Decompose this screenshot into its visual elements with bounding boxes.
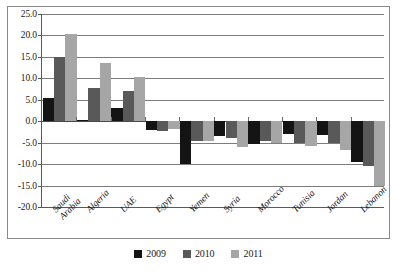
- bar-2011: [65, 34, 76, 121]
- y-axis-label: 10.0: [21, 73, 37, 83]
- bar-2010: [363, 121, 374, 166]
- bar-group: [76, 14, 110, 207]
- x-axis-tick: [248, 117, 249, 121]
- bar-2011: [203, 121, 214, 140]
- x-axis-tick: [111, 117, 112, 121]
- bar-2009: [77, 120, 88, 121]
- bar-group: [42, 14, 76, 207]
- bar-group: [351, 14, 385, 207]
- bar-2010: [157, 121, 168, 130]
- y-axis-label: -5.0: [22, 138, 37, 148]
- bar-group: [316, 14, 350, 207]
- y-axis-label: 5.0: [25, 95, 37, 105]
- legend-label: 2010: [195, 248, 215, 259]
- y-axis-label: 15.0: [21, 52, 37, 62]
- bar-2010: [88, 88, 99, 121]
- bar-2010: [260, 121, 271, 140]
- bar-2011: [374, 121, 385, 185]
- legend-item-2009[interactable]: 2009: [134, 248, 166, 259]
- bar-2010: [123, 91, 134, 121]
- bar-2009: [351, 121, 362, 162]
- bar-group: [179, 14, 213, 207]
- y-axis-label: -10.0: [18, 159, 37, 169]
- bar-2009: [111, 108, 122, 121]
- x-axis-tick: [316, 117, 317, 121]
- legend-swatch-icon: [231, 250, 239, 258]
- y-axis-label: 0.0: [25, 116, 37, 126]
- plot-area: 25.020.015.010.05.00.0-5.0-10.0-15.0-20.…: [41, 14, 384, 207]
- bar-2011: [340, 121, 351, 149]
- bar-group: [248, 14, 282, 207]
- x-axis-tick: [179, 117, 180, 121]
- bar-2010: [226, 121, 237, 138]
- y-axis-label: -20.0: [18, 202, 37, 212]
- bar-2010: [191, 121, 202, 140]
- bar-2010: [294, 121, 305, 142]
- bar-group: [145, 14, 179, 207]
- bar-group: [214, 14, 248, 207]
- bar-2009: [283, 121, 294, 134]
- bar-2011: [237, 121, 248, 147]
- x-axis-tick: [214, 117, 215, 121]
- bar-2009: [214, 121, 225, 136]
- x-axis-tick: [282, 117, 283, 121]
- bar-2011: [100, 63, 111, 121]
- legend-label: 2011: [243, 248, 262, 259]
- legend-label: 2009: [146, 248, 166, 259]
- bar-2010: [328, 121, 339, 142]
- bar-2011: [134, 77, 145, 121]
- bar-2010: [54, 57, 65, 121]
- bar-2009: [146, 121, 157, 130]
- y-axis-label: 25.0: [21, 9, 37, 19]
- legend-swatch-icon: [134, 250, 142, 258]
- bar-2009: [248, 121, 259, 144]
- bar-2009: [180, 121, 191, 164]
- bar-group: [111, 14, 145, 207]
- bar-2009: [317, 121, 328, 135]
- legend-swatch-icon: [183, 250, 191, 258]
- legend-item-2011[interactable]: 2011: [231, 248, 262, 259]
- bar-2009: [43, 98, 54, 122]
- bar-group: [282, 14, 316, 207]
- bar-2011: [168, 121, 179, 129]
- x-axis-tick: [351, 117, 352, 121]
- y-axis-label: -15.0: [18, 181, 37, 191]
- legend-item-2010[interactable]: 2010: [183, 248, 215, 259]
- chart-legend: 200920102011: [0, 248, 397, 259]
- y-axis-label: 20.0: [21, 30, 37, 40]
- x-axis-tick: [145, 117, 146, 121]
- x-axis-tick: [76, 117, 77, 121]
- bar-2011: [271, 121, 282, 142]
- bar-2011: [305, 121, 316, 145]
